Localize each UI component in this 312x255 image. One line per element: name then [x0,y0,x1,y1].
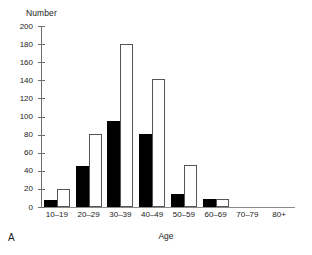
x-axis-line [41,207,295,208]
y-axis-tick: 0 [38,207,45,208]
bar [89,134,102,207]
bar [139,134,152,207]
bar [152,79,165,207]
bar [76,166,89,207]
y-axis-tick-label: 140 [20,77,33,85]
x-axis-tick-label: 50–59 [173,210,195,220]
x-axis-tick-label: 40–49 [141,210,163,220]
x-axis-tick-label: 20–29 [78,210,100,220]
panel-letter: A [8,232,15,243]
bar [107,121,120,207]
y-axis-tick-label: 0 [29,204,33,212]
bar [216,199,229,207]
y-axis-tick-label: 120 [20,95,33,103]
x-axis-title-text: Age [158,231,173,241]
y-axis-tick-label: 20 [24,185,33,193]
x-axis-title: Age [0,231,312,241]
bar [184,165,197,207]
y-axis-tick-label: 100 [20,113,33,121]
bar [44,200,57,207]
x-axis-tick-label: 70–79 [236,210,258,220]
y-axis-tick-label: 160 [20,59,33,67]
bar [171,194,184,207]
y-axis-tick-label: 40 [24,167,33,175]
y-axis-tick-label: 80 [24,131,33,139]
y-axis-tick-label: 180 [20,41,33,49]
bar-group-container [41,26,295,207]
bar [57,189,70,207]
bar [203,199,216,207]
bar [120,44,133,207]
x-axis-tick-labels: 10–1920–2930–3940–4950–5960–6970–7980+ [41,210,295,222]
y-axis-tick-label: 200 [20,23,33,31]
figure-panel-a: Number 020406080100120140160180200 10–19… [0,0,312,255]
y-axis-title: Number [26,8,57,18]
plot-area: 020406080100120140160180200 [41,26,295,207]
x-axis-tick-label: 30–39 [109,210,131,220]
y-axis-tick-label: 60 [24,149,33,157]
x-axis-tick-label: 60–69 [205,210,227,220]
x-axis-tick-label: 10–19 [46,210,68,220]
x-axis-tick-label: 80+ [272,210,286,220]
